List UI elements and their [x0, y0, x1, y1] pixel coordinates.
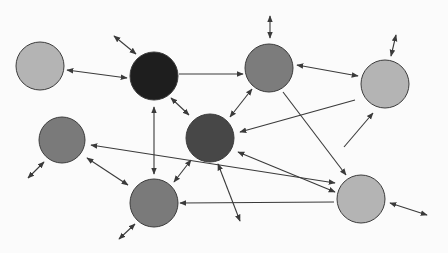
node-n2: [130, 52, 178, 100]
edge-arrow-1: [114, 36, 136, 54]
edge-arrow-11: [283, 92, 346, 175]
edge-arrow-15: [218, 164, 240, 221]
edge-arrow-0: [67, 70, 127, 78]
node-n3: [245, 44, 293, 92]
edge-arrow-16: [174, 160, 191, 182]
edge-arrow-17: [87, 158, 128, 185]
edge-arrow-8: [230, 89, 252, 117]
node-n7: [130, 179, 178, 227]
node-n6: [186, 114, 234, 162]
edge-arrow-20: [390, 203, 427, 215]
edge-arrow-14: [180, 202, 334, 203]
edge-arrow-5: [391, 35, 396, 56]
nodes-group: [16, 42, 409, 227]
edge-arrow-19: [119, 224, 135, 239]
node-n4: [361, 60, 409, 108]
edge-arrow-6: [171, 98, 189, 115]
edge-arrow-9: [344, 113, 373, 147]
node-n5: [39, 117, 85, 163]
edge-arrow-13: [238, 152, 335, 192]
network-diagram: [0, 0, 448, 253]
edge-arrow-18: [28, 162, 44, 178]
node-n8: [337, 175, 385, 223]
node-n1: [16, 42, 64, 90]
edge-arrow-4: [297, 65, 358, 76]
edge-arrow-10: [240, 100, 355, 132]
